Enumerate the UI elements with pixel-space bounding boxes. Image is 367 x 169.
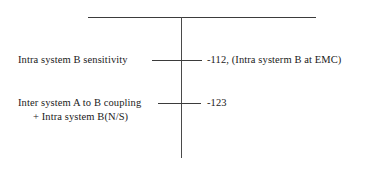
left-label-row-1: Intra system B sensitivity <box>18 53 128 67</box>
value-row-1: -112, (Intra systerm B at EMC) <box>207 53 341 67</box>
value-row-1-text: -112, (Intra systerm B at EMC) <box>207 54 341 65</box>
left-label-row-2-continuation: + Intra system B(N/S) <box>18 110 141 124</box>
top-horizontal-rule <box>88 17 316 18</box>
left-label-row-2-text: Inter system A to B coupling <box>18 97 141 108</box>
tick-mark-row-2 <box>158 103 201 104</box>
vertical-axis-line <box>181 17 182 158</box>
left-label-row-2: Inter system A to B coupling + Intra sys… <box>18 96 141 124</box>
value-row-2: -123 <box>207 96 227 110</box>
left-label-row-1-text: Intra system B sensitivity <box>18 54 128 65</box>
value-row-2-text: -123 <box>207 97 227 108</box>
tick-mark-row-1 <box>152 60 202 61</box>
diagram-canvas: Intra system B sensitivity Inter system … <box>0 0 367 169</box>
